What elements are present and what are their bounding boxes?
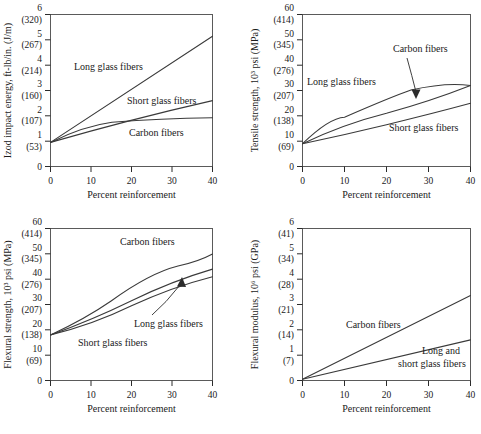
y-tick-label-si: (414) <box>21 229 42 240</box>
x-tick-marks <box>51 381 213 387</box>
x-tick-label: 10 <box>340 390 350 400</box>
y-axis-title: Tensile strength, 10³ psi (MPa) <box>249 29 261 153</box>
y-tick-label: 30 <box>285 79 295 89</box>
y-tick-label: 20 <box>33 319 43 329</box>
tensile-strength-svg: 60 50 40 30 20 10 0 (414) (345) (276) (2… <box>241 0 481 215</box>
x-tick-label: 30 <box>424 176 434 186</box>
y-axis-title: Izod impact energy, ft-lb/in. (J/m) <box>2 23 14 158</box>
x-tick-marks <box>51 167 213 173</box>
y-tick-label-si: (414) <box>273 15 294 26</box>
x-tick-label: 30 <box>167 176 177 186</box>
y-tick-label: 60 <box>33 217 43 227</box>
y-tick-label-si: (107) <box>21 116 42 127</box>
y-tick-label-si: (34) <box>278 254 294 265</box>
y-tick-label: 0 <box>289 162 294 172</box>
x-axis-title: Percent reinforcement <box>87 403 176 414</box>
y-tick-label-si: (7) <box>283 356 294 367</box>
pointer-line-carbon-fibers <box>407 58 416 92</box>
y-tick-label: 20 <box>285 105 295 115</box>
series-annotation-short-glass-fibers: Short glass fibers <box>78 337 148 348</box>
y-tick-label: 3 <box>37 79 42 89</box>
chart-panel-tensile-strength: 60 50 40 30 20 10 0 (414) (345) (276) (2… <box>241 0 481 215</box>
pointer-arrowhead-carbon-fibers <box>412 90 421 100</box>
curve-carbon-fibers <box>303 86 471 144</box>
x-tick-label: 0 <box>300 176 305 186</box>
x-axis-title: Percent reinforcement <box>342 403 431 414</box>
y-tick-label-si: (138) <box>273 116 294 127</box>
series-annotation-long-glass-fibers: Long glass fibers <box>307 76 376 87</box>
series-annotation-carbon-fibers: Carbon fibers <box>346 319 401 330</box>
flexural-modulus-svg: 6 5 4 3 2 1 0 (41) (34) (28) (21) (14) (… <box>241 215 481 434</box>
y-tick-label-si: (69) <box>26 356 42 367</box>
four-panel-figure: 6 5 4 3 2 1 0 (320) (267) (214) (160) (1… <box>0 0 481 434</box>
y-tick-label-si: (28) <box>278 280 294 291</box>
x-tick-label: 40 <box>466 390 476 400</box>
y-tick-marks <box>297 15 303 167</box>
x-tick-label: 0 <box>48 176 53 186</box>
y-tick-label-si: (214) <box>21 66 42 77</box>
y-tick-label-si: (345) <box>273 40 294 51</box>
series-annotation-long-glass-fibers: Long glass fibers <box>134 318 203 329</box>
izod-impact-energy-svg: 6 5 4 3 2 1 0 (320) (267) (214) (160) (1… <box>0 0 240 215</box>
x-axis-title: Percent reinforcement <box>87 189 176 200</box>
y-tick-label-si: (69) <box>278 142 294 153</box>
y-tick-marks <box>297 229 303 381</box>
y-tick-label-si: (53) <box>26 142 42 153</box>
y-tick-label: 0 <box>37 162 42 172</box>
y-tick-label: 6 <box>289 217 294 227</box>
x-tick-label: 40 <box>208 176 218 186</box>
y-tick-label-si: (276) <box>21 280 42 291</box>
chart-panel-flexural-strength: 60 50 40 30 20 10 0 (414) (345) (276) (2… <box>0 215 240 434</box>
x-tick-label: 30 <box>424 390 434 400</box>
y-tick-label: 0 <box>289 376 294 386</box>
y-tick-label-si: (267) <box>21 40 42 51</box>
series-annotation-short-glass-fibers: Short glass fibers <box>127 95 197 106</box>
y-tick-label-si: (320) <box>21 15 42 26</box>
series-annotation-short-glass-fibers: short glass fibers <box>398 358 466 369</box>
y-tick-label: 40 <box>285 54 295 64</box>
y-tick-label: 3 <box>289 293 294 303</box>
series-annotation-carbon-fibers: Carbon fibers <box>393 43 448 54</box>
y-tick-marks <box>45 229 51 381</box>
y-tick-label-si: (41) <box>278 229 294 240</box>
y-tick-label: 0 <box>37 376 42 386</box>
y-tick-label: 40 <box>33 268 43 278</box>
y-tick-label: 2 <box>289 319 294 329</box>
y-tick-label: 50 <box>33 243 43 253</box>
y-tick-label-si: (207) <box>273 91 294 102</box>
series-annotation-long-glass-fibers: Long glass fibers <box>74 61 143 72</box>
y-tick-label: 5 <box>289 243 294 253</box>
x-tick-label: 20 <box>127 390 137 400</box>
x-tick-label: 10 <box>340 176 350 186</box>
y-tick-label: 6 <box>37 3 42 13</box>
chart-panel-flexural-modulus: 6 5 4 3 2 1 0 (41) (34) (28) (21) (14) (… <box>241 215 481 434</box>
y-tick-label: 1 <box>37 130 42 140</box>
y-tick-label: 10 <box>33 344 43 354</box>
y-tick-label-si: (160) <box>21 91 42 102</box>
plot-frame <box>51 229 213 381</box>
x-axis-title: Percent reinforcement <box>342 189 431 200</box>
series-annotation-short-glass-fibers: Short glass fibers <box>389 122 459 133</box>
y-tick-label: 30 <box>33 293 43 303</box>
x-tick-label: 10 <box>86 390 96 400</box>
y-tick-label-si: (276) <box>273 66 294 77</box>
plot-frame <box>303 15 471 167</box>
series-annotation-carbon-fibers: Carbon fibers <box>120 236 175 247</box>
x-tick-label: 20 <box>382 176 392 186</box>
y-tick-label-si: (138) <box>21 330 42 341</box>
curve-long-glass-fibers <box>303 84 471 143</box>
y-tick-label-si: (345) <box>21 254 42 265</box>
y-tick-label: 1 <box>289 344 294 354</box>
y-axis-title: Flexural strength, 10³ psi (MPa) <box>2 240 14 368</box>
y-tick-label-si: (21) <box>278 305 294 316</box>
y-tick-label: 4 <box>37 54 42 64</box>
chart-panel-izod-impact-energy: 6 5 4 3 2 1 0 (320) (267) (214) (160) (1… <box>0 0 240 215</box>
y-axis-title: Flexural modulus, 10⁶ psi (GPa) <box>249 240 261 369</box>
x-tick-label: 40 <box>208 390 218 400</box>
x-tick-label: 40 <box>466 176 476 186</box>
y-tick-label: 60 <box>285 3 295 13</box>
y-tick-label: 5 <box>37 29 42 39</box>
x-tick-marks <box>303 381 471 387</box>
y-tick-label-si: (14) <box>278 330 294 341</box>
y-tick-marks <box>45 15 51 167</box>
